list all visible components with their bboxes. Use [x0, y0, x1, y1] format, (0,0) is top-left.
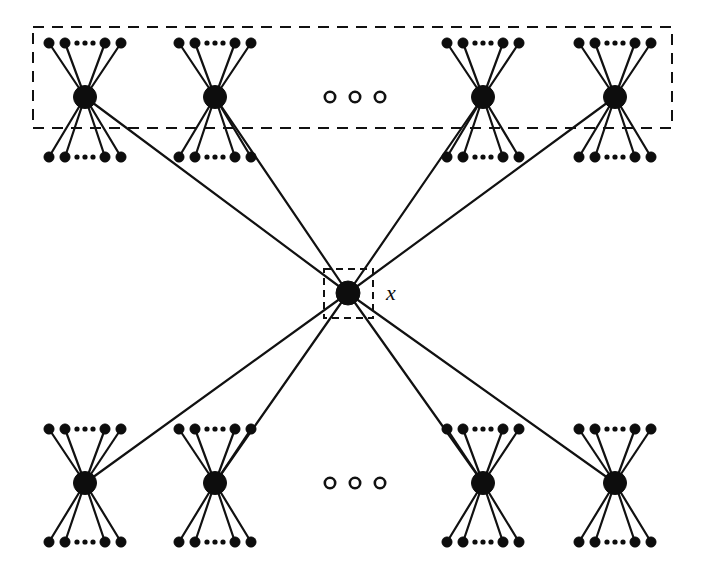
edge-center-to-bottom-hub-4	[348, 293, 615, 483]
top-cluster-4-lower-leaf-1	[574, 152, 584, 162]
bottom-cluster-1-upper-leaf-2	[60, 424, 70, 434]
bottom-cluster-3-upper-ellipsis-dot-2	[480, 426, 485, 431]
bottom-cluster-3-lower-leaf-2	[458, 537, 468, 547]
top-cluster-1-lower-leaf-2	[60, 152, 70, 162]
edge-center-to-top-hub-1	[85, 97, 348, 293]
bottom-cluster-4-upper-leaf-1	[574, 424, 584, 434]
bottom-cluster-4-upper-ellipsis-dot-2	[612, 426, 617, 431]
graph-diagram: x	[0, 0, 704, 581]
bottom-cluster-3-hub	[472, 472, 495, 495]
top-cluster-2-lower-leaf-2	[190, 152, 200, 162]
bottom-cluster-4-upper-ellipsis-dot-3	[620, 426, 625, 431]
top-cluster-4-lower-ellipsis-dot-3	[620, 154, 625, 159]
bottom-cluster-3-upper-leaf-4	[514, 424, 524, 434]
top-cluster-4-upper-ellipsis-dot-3	[620, 40, 625, 45]
bottom-cluster-2-lower-leaf-1	[174, 537, 184, 547]
bottom-cluster-2-lower-leaf-3	[230, 537, 240, 547]
bottom-cluster-4-hub	[604, 472, 627, 495]
top-cluster-3-lower-ellipsis-dot-1	[472, 154, 477, 159]
bottom-cluster-2-lower-leaf-4	[246, 537, 256, 547]
bottom-cluster-4-lower-leaf-4	[646, 537, 656, 547]
bottom-cluster-1-upper-leaf-4	[116, 424, 126, 434]
center-vertex-label: x	[385, 280, 396, 305]
top-row-ellipsis-circle-1	[325, 92, 335, 102]
top-row-ellipsis-circle-3	[375, 92, 385, 102]
top-cluster-3	[442, 38, 524, 162]
top-cluster-3-lower-leaf-3	[498, 152, 508, 162]
top-cluster-4-upper-ellipsis-dot-1	[604, 40, 609, 45]
top-cluster-3-hub	[472, 86, 495, 109]
top-cluster-3-lower-ellipsis-dot-3	[488, 154, 493, 159]
bottom-cluster-2-upper-leaf-1	[174, 424, 184, 434]
top-cluster-4-upper-leaf-4	[646, 38, 656, 48]
top-cluster-2-lower-leaf-1	[174, 152, 184, 162]
bottom-cluster-1-upper-ellipsis-dot-1	[74, 426, 79, 431]
top-cluster-4-upper-ellipsis-dot-2	[612, 40, 617, 45]
top-cluster-2-upper-leaf-3	[230, 38, 240, 48]
top-cluster-2-hub	[204, 86, 227, 109]
bottom-cluster-3-upper-leaf-1	[442, 424, 452, 434]
bottom-cluster-1-hub	[74, 472, 97, 495]
edge-center-to-top-hub-2	[215, 97, 348, 293]
top-cluster-1-lower-leaf-3	[100, 152, 110, 162]
top-cluster-4-lower-leaf-4	[646, 152, 656, 162]
top-cluster-1-upper-ellipsis-dot-1	[74, 40, 79, 45]
top-cluster-3-upper-ellipsis-dot-1	[472, 40, 477, 45]
bottom-cluster-4-upper-leaf-2	[590, 424, 600, 434]
bottom-cluster-2-upper-leaf-4	[246, 424, 256, 434]
top-cluster-1-upper-leaf-1	[44, 38, 54, 48]
bottom-cluster-2-lower-ellipsis-dot-3	[220, 539, 225, 544]
top-cluster-4-lower-leaf-2	[590, 152, 600, 162]
top-cluster-2-upper-ellipsis-dot-1	[204, 40, 209, 45]
bottom-cluster-4-lower-ellipsis-dot-3	[620, 539, 625, 544]
bottom-cluster-1-lower-ellipsis-dot-2	[82, 539, 87, 544]
top-cluster-2-lower-leaf-3	[230, 152, 240, 162]
top-cluster-3-lower-leaf-4	[514, 152, 524, 162]
top-row-ellipsis-circle-2	[350, 92, 360, 102]
top-cluster-3-upper-leaf-4	[514, 38, 524, 48]
bottom-cluster-4-lower-leaf-2	[590, 537, 600, 547]
top-cluster-3-upper-leaf-3	[498, 38, 508, 48]
bottom-cluster-2-upper-ellipsis-dot-1	[204, 426, 209, 431]
bottom-cluster-3-lower-leaf-1	[442, 537, 452, 547]
top-cluster-2-lower-ellipsis-dot-2	[212, 154, 217, 159]
top-cluster-3-upper-leaf-1	[442, 38, 452, 48]
bottom-cluster-4-lower-ellipsis-dot-2	[612, 539, 617, 544]
bottom-cluster-2-hub	[204, 472, 227, 495]
bottom-cluster-4-upper-leaf-3	[630, 424, 640, 434]
top-cluster-4-upper-leaf-1	[574, 38, 584, 48]
bottom-cluster-1-upper-ellipsis-dot-2	[82, 426, 87, 431]
edge-center-to-top-hub-4	[348, 97, 615, 293]
top-cluster-2-upper-leaf-1	[174, 38, 184, 48]
bottom-cluster-3-upper-leaf-2	[458, 424, 468, 434]
top-cluster-4-lower-ellipsis-dot-2	[612, 154, 617, 159]
top-cluster-2-upper-ellipsis-dot-2	[212, 40, 217, 45]
top-cluster-3-upper-ellipsis-dot-2	[480, 40, 485, 45]
bottom-cluster-1-lower-leaf-3	[100, 537, 110, 547]
top-cluster-3-upper-leaf-2	[458, 38, 468, 48]
center-vertex-node	[336, 281, 360, 305]
bottom-row-ellipsis-circle-2	[350, 478, 360, 488]
bottom-cluster-2-upper-leaf-2	[190, 424, 200, 434]
bottom-row-ellipsis-circle-1	[325, 478, 335, 488]
bottom-cluster-2-lower-leaf-2	[190, 537, 200, 547]
bottom-cluster-1-lower-leaf-1	[44, 537, 54, 547]
top-cluster-1-upper-ellipsis-dot-2	[82, 40, 87, 45]
bottom-cluster-3-lower-ellipsis-dot-3	[488, 539, 493, 544]
bottom-cluster-4-lower-leaf-1	[574, 537, 584, 547]
bottom-cluster-3-lower-leaf-3	[498, 537, 508, 547]
top-cluster-1-upper-leaf-3	[100, 38, 110, 48]
top-cluster-4-hub	[604, 86, 627, 109]
bottom-cluster-3-lower-leaf-4	[514, 537, 524, 547]
bottom-cluster-1-lower-ellipsis-dot-1	[74, 539, 79, 544]
bottom-cluster-1-lower-leaf-2	[60, 537, 70, 547]
bottom-cluster-1-lower-ellipsis-dot-3	[90, 539, 95, 544]
bottom-cluster-2-upper-ellipsis-dot-3	[220, 426, 225, 431]
bottom-cluster-1-lower-leaf-4	[116, 537, 126, 547]
bottom-cluster-3-upper-leaf-3	[498, 424, 508, 434]
bottom-cluster-3-upper-ellipsis-dot-1	[472, 426, 477, 431]
bottom-cluster-3-lower-ellipsis-dot-1	[472, 539, 477, 544]
top-cluster-3-lower-ellipsis-dot-2	[480, 154, 485, 159]
bottom-cluster-1	[44, 424, 126, 547]
top-cluster-4	[574, 38, 656, 162]
